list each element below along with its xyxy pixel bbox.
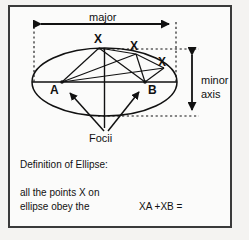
- ellipse-equation: XA +XB =: [139, 202, 182, 212]
- definition-heading: Definition of Ellipse:: [20, 160, 108, 170]
- minor-axis-label-line2: axis: [201, 89, 221, 100]
- focus-b-label: B: [148, 84, 157, 96]
- major-axis-label: major: [89, 12, 117, 23]
- point-x2-label: X: [130, 40, 138, 52]
- minor-axis-label-line1: minor: [201, 75, 229, 86]
- point-x3-label: X: [158, 56, 166, 68]
- focii-label: Focii: [89, 133, 112, 144]
- focus-a-label: A: [50, 84, 59, 96]
- definition-line-2: ellipse obey the: [20, 202, 90, 212]
- definition-line-1: all the points X on: [20, 188, 100, 198]
- ellipse-diagram-figure: major minor axis X X X A B Focii Definit…: [0, 0, 249, 240]
- point-x1-label: X: [94, 33, 102, 45]
